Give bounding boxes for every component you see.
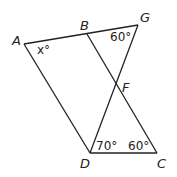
label-F: F [122, 80, 130, 95]
segment-AD [24, 44, 90, 153]
angle-G-label: 60° [110, 30, 131, 44]
segment-GD [90, 25, 138, 153]
angle-A-label: x° [37, 43, 50, 57]
geometry-diagram: A B G F D C x° 60° 70° 60° [0, 0, 177, 177]
label-C: C [157, 156, 167, 171]
label-D: D [80, 156, 90, 171]
label-A: A [11, 33, 21, 48]
angle-C-label: 60° [128, 139, 149, 153]
angle-D-label: 70° [96, 139, 117, 153]
label-B: B [80, 18, 89, 33]
label-G: G [140, 10, 150, 25]
